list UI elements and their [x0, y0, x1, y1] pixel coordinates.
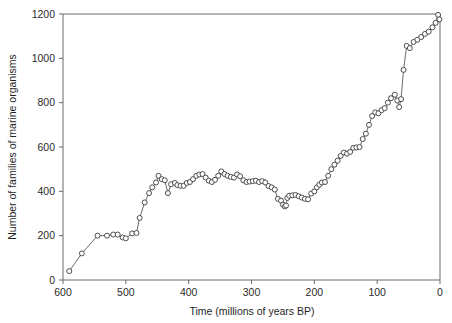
chart-figure: 6005004003002001000 02004006008001000120… — [0, 0, 452, 323]
data-point-marker — [323, 180, 328, 185]
data-point-marker — [326, 173, 331, 178]
y-tick-label: 200 — [37, 229, 55, 241]
data-point-marker — [115, 232, 120, 237]
data-point-marker — [392, 92, 397, 97]
y-tick-label: 400 — [37, 185, 55, 197]
data-point-marker — [284, 203, 289, 208]
x-tick-label: 600 — [54, 286, 72, 298]
data-point-marker — [407, 46, 412, 51]
y-tick-label: 0 — [49, 274, 55, 286]
data-point-marker — [95, 233, 100, 238]
data-point-marker — [137, 215, 142, 220]
x-axis-ticks: 6005004003002001000 — [54, 280, 443, 298]
data-point-marker — [147, 191, 152, 196]
data-point-marker — [153, 180, 158, 185]
data-point-marker — [385, 100, 390, 105]
data-point-marker — [104, 233, 109, 238]
data-point-marker — [437, 17, 442, 22]
data-point-marker — [335, 158, 340, 163]
axis-frame — [63, 14, 440, 280]
y-tick-label: 600 — [37, 141, 55, 153]
data-point-marker — [165, 191, 170, 196]
data-point-marker — [216, 173, 221, 178]
data-point-marker — [123, 236, 128, 241]
data-series — [67, 12, 442, 273]
x-tick-label: 500 — [117, 286, 135, 298]
y-axis-ticks: 020040060080010001200 — [32, 8, 63, 286]
data-point-marker — [363, 131, 368, 136]
x-tick-label: 0 — [437, 286, 443, 298]
data-point-marker — [67, 269, 72, 274]
y-axis-label: Number of families of marine organisms — [6, 54, 18, 240]
x-tick-label: 200 — [306, 286, 324, 298]
x-tick-label: 300 — [243, 286, 261, 298]
y-tick-label: 1200 — [32, 8, 56, 20]
data-point-marker — [329, 167, 334, 172]
data-point-marker — [134, 231, 139, 236]
x-tick-label: 100 — [368, 286, 386, 298]
x-tick-label: 400 — [180, 286, 198, 298]
x-axis-label: Time (millions of years BP) — [189, 305, 314, 317]
data-point-marker — [367, 122, 372, 127]
data-point-marker — [79, 251, 84, 256]
y-tick-label: 800 — [37, 96, 55, 108]
data-point-marker — [397, 105, 402, 110]
data-point-marker — [357, 145, 362, 150]
data-point-marker — [430, 25, 435, 30]
data-point-marker — [426, 29, 431, 34]
series-line — [69, 15, 439, 271]
data-point-marker — [401, 67, 406, 72]
data-point-marker — [399, 97, 404, 102]
data-point-marker — [150, 185, 155, 190]
series-markers — [67, 12, 442, 273]
marine-diversity-chart: 6005004003002001000 02004006008001000120… — [0, 0, 452, 323]
data-point-marker — [142, 200, 147, 205]
axes: 6005004003002001000 02004006008001000120… — [32, 8, 443, 298]
data-point-marker — [360, 137, 365, 142]
data-point-marker — [306, 197, 311, 202]
data-point-marker — [272, 187, 277, 192]
y-tick-label: 1000 — [32, 52, 56, 64]
data-point-marker — [382, 106, 387, 111]
data-point-marker — [162, 178, 167, 183]
